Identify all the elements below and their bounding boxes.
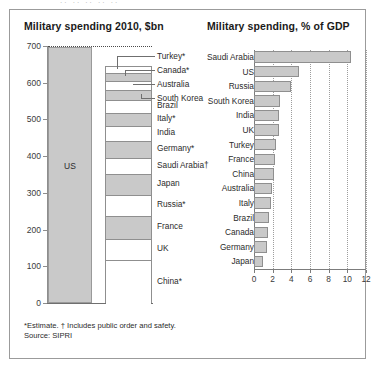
- stack-country-label: Germany*: [157, 144, 194, 153]
- right-bar-rect: [254, 241, 267, 252]
- stack-country-label: Brazil: [157, 101, 178, 110]
- right-x-tick: [254, 270, 255, 273]
- right-bar-row: India: [196, 108, 366, 123]
- right-x-tick-label: 12: [359, 274, 373, 284]
- right-bar-rect: [254, 110, 279, 121]
- left-y-tick-label: 700: [15, 42, 41, 50]
- right-bar-row: Germany: [196, 240, 366, 255]
- right-bar-row: China: [196, 167, 366, 182]
- footnote-estimate: *Estimate. † Includes public order and s…: [24, 321, 176, 331]
- right-x-tick-label: 4: [284, 274, 298, 284]
- right-x-tick: [291, 270, 292, 273]
- right-gridline: [366, 50, 367, 269]
- left-chart: 0100200300400500600700 US Turkey*Canada*…: [14, 40, 194, 315]
- right-bar-rect: [254, 81, 291, 92]
- stack-country-label: Russia*: [157, 200, 186, 209]
- chart-figure: .. .. .. .. .. Military spending 2010, $…: [0, 0, 375, 369]
- stack-segment: [106, 174, 151, 194]
- left-y-tick-label: 300: [15, 189, 41, 197]
- stack-country-label: China*: [157, 277, 182, 286]
- right-bar-rect: [254, 183, 272, 194]
- stack-country-label: Japan: [157, 179, 180, 188]
- right-bar-rect: [254, 154, 275, 165]
- left-y-tick-label: 200: [15, 226, 41, 234]
- right-bar-row: Russia: [196, 79, 366, 94]
- right-bar-label: India: [236, 110, 254, 120]
- right-bar-row: Brazil: [196, 211, 366, 226]
- segment-divider: [106, 100, 151, 101]
- stack-segment: [106, 100, 151, 112]
- left-y-tick-label: 400: [15, 152, 41, 160]
- right-x-tick: [310, 270, 311, 273]
- stack-segment: [106, 216, 151, 239]
- segment-divider: [106, 126, 151, 127]
- right-x-tick-label: 0: [247, 274, 261, 284]
- segment-divider: [106, 158, 151, 159]
- segment-divider: [106, 81, 151, 82]
- stack-segment: [106, 158, 151, 175]
- right-bar-label: Saudi Arabia: [207, 52, 254, 62]
- segment-divider: [106, 73, 151, 74]
- right-bar-label: Italy: [239, 198, 254, 208]
- leader-line: [117, 56, 118, 69]
- right-bar-rect: [254, 197, 271, 208]
- right-bar-rect: [254, 227, 268, 238]
- right-bar-label: Brazil: [233, 213, 254, 223]
- right-bar-rect: [254, 95, 280, 106]
- right-bar-row: UK: [196, 123, 366, 138]
- stack-segment: [106, 126, 151, 141]
- stack-country-label: Australia: [157, 80, 189, 89]
- right-x-tick-label: 2: [266, 274, 280, 284]
- leader-line: [133, 84, 155, 85]
- stack-country-label: Italy*: [157, 114, 175, 123]
- footnote-source: Source: SIPRI: [24, 331, 72, 341]
- right-bar-label: Japan: [231, 256, 254, 266]
- stack-segment: [106, 73, 151, 81]
- right-bar-row: Turkey: [196, 138, 366, 153]
- right-bar-row: Japan: [196, 254, 366, 269]
- stack-country-label: Turkey*: [157, 52, 185, 61]
- right-bar-label: China: [232, 169, 254, 179]
- right-bar-label: Russia: [229, 81, 254, 91]
- stack-country-label: Canada*: [157, 66, 189, 75]
- stack-segment: [106, 141, 151, 158]
- right-bar-row: France: [196, 152, 366, 167]
- right-x-tick-label: 6: [303, 274, 317, 284]
- segment-divider: [106, 216, 151, 217]
- right-bar-label: Australia: [222, 183, 254, 193]
- left-y-tick-label: 500: [15, 115, 41, 123]
- leader-line: [125, 70, 155, 71]
- right-x-tick-label: 8: [322, 274, 336, 284]
- right-bar-label: South Korea: [208, 96, 254, 106]
- right-bar-row: South Korea: [196, 94, 366, 109]
- right-bar-row: Saudi Arabia: [196, 50, 366, 65]
- segment-divider: [106, 239, 151, 240]
- right-bar-rect: [254, 139, 276, 150]
- right-bar-rect: [254, 168, 274, 179]
- right-chart-title: Military spending, % of GDP: [207, 20, 350, 32]
- right-bar-label: Germany: [220, 242, 254, 252]
- page-top-artifact: .. .. .. .. ..: [0, 0, 375, 9]
- top-strip-text: .. .. .. .. ..: [60, 0, 119, 5]
- right-bar-rect: [254, 51, 351, 62]
- right-bar-row: Italy: [196, 196, 366, 211]
- stack-segment: [106, 195, 151, 217]
- right-bar-rect: [254, 256, 263, 267]
- stack-segment: [106, 239, 151, 260]
- stack-country-label: India: [157, 128, 175, 137]
- segment-divider: [106, 113, 151, 114]
- right-bar-row: Canada: [196, 225, 366, 240]
- right-bar-row: Australia: [196, 181, 366, 196]
- right-bar-rows: Saudi ArabiaUSRussiaSouth KoreaIndiaUKTu…: [196, 50, 366, 269]
- right-x-tick: [366, 270, 367, 273]
- segment-divider: [106, 260, 151, 261]
- stack-country-label: UK: [157, 244, 169, 253]
- right-bar-rect: [254, 66, 299, 77]
- right-x-tick: [347, 270, 348, 273]
- stack-segment: [106, 113, 151, 127]
- right-bar-rect: [254, 124, 279, 135]
- us-bar-rect: US: [48, 47, 92, 303]
- right-bar-label: Turkey: [229, 140, 254, 150]
- right-x-tick: [273, 270, 274, 273]
- right-chart: Saudi ArabiaUSRussiaSouth KoreaIndiaUKTu…: [196, 40, 366, 315]
